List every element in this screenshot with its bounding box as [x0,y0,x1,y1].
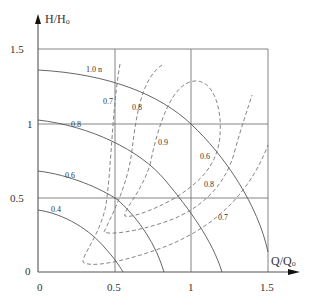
y-tick-labels: 1.5 1 0.5 0 [10,43,33,277]
x-axis-arrow-icon [288,269,300,275]
label-speed-0.6: 0.6 [65,171,75,180]
y-axis-label: H/Ho [45,12,70,26]
x-tick-1.5: 1.5 [260,281,274,293]
pump-characteristic-chart: 1.0 n 0.7 0.8 0.8 0.9 0.6 0.8 0.6 0.7 0.… [0,0,317,303]
label-eff-0.8-top: 0.8 [132,103,142,112]
y-tick-0.5: 0.5 [10,192,24,204]
label-eff-0.7: 0.7 [103,97,113,106]
grid-lines [38,49,268,272]
x-tick-0.5: 0.5 [107,281,121,293]
x-tick-1: 1 [188,281,194,293]
label-eff-0.9: 0.9 [158,138,168,147]
efficiency-contour-0.7 [83,64,268,264]
label-speed-0.4: 0.4 [51,205,61,214]
y-axis-arrow-icon [35,14,41,24]
speed-curve-0.8 [38,120,222,272]
y-tick-0: 0 [25,265,31,277]
label-eff-0.7-right: 0.7 [218,213,228,222]
x-tick-labels: 0 0.5 1 1.5 [37,281,274,293]
speed-curve-1.0n [38,70,268,252]
efficiency-contours [83,64,268,264]
label-eff-0.8-right: 0.8 [204,180,214,189]
label-speed-1.0n: 1.0 n [86,65,102,74]
label-eff-0.6: 0.6 [200,152,210,161]
label-speed-0.8: 0.8 [71,120,81,129]
y-tick-1: 1 [27,118,33,130]
efficiency-contour-0.9 [125,81,220,216]
y-tick-1.5: 1.5 [10,43,24,55]
x-axis-label: Q/Qo [271,254,296,268]
x-tick-0: 0 [37,281,43,293]
